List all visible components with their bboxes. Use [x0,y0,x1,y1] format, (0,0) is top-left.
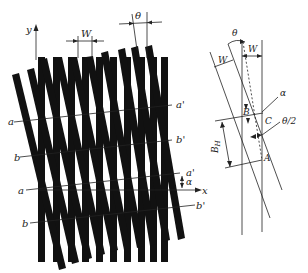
detail-diagram: θ W W α θ/2 B C A BH [210,28,296,235]
alpha-label: α [186,177,192,187]
detail-theta-label: θ [232,28,238,38]
x-axis-arrow-icon [195,188,202,193]
fringe-label-right: b' [176,134,185,145]
fringe-label-left: b [22,218,28,229]
fringe-label-right: b' [196,200,205,211]
pitch-dimension: W [66,28,104,58]
detail-w-vertical-label: W [248,44,258,54]
detail-half-theta-label: θ/2 [282,116,296,126]
point-b-label: B [242,107,250,117]
x-axis-label: x [202,185,208,196]
tilted-line-right [228,44,282,190]
theta-label: θ [135,10,141,21]
detail-w-tilted-label: W [218,55,228,65]
pitch-label: W [81,28,92,39]
point-a-label: A [263,153,271,163]
fringe-label-left: b [14,152,20,163]
fringe-label-right: a' [176,99,185,110]
fringe-label-left: a [18,185,24,196]
point-c-label: C [265,116,272,126]
y-axis-label: y [25,24,32,35]
fringe-label-left: a [8,116,14,127]
detail-alpha-label: α [280,88,286,98]
fringe-spacing-label: BH [210,139,222,154]
dashed-diagonal [243,42,262,160]
y-axis-arrow-icon [34,24,39,31]
moire-diagram: y x W θ a a' b b' a a' b b' [0,0,308,273]
